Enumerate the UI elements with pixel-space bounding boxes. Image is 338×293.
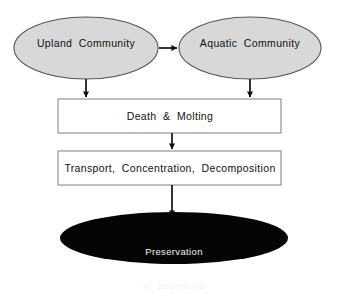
preservation-label-line-2: in Sediments [104, 280, 244, 291]
node-preservation-in-sediments [60, 212, 288, 264]
node-upland-community [14, 17, 158, 79]
node-death-molting [58, 99, 281, 133]
node-transport-concentration-decomposition [58, 151, 281, 185]
node-aquatic-community [179, 17, 321, 79]
